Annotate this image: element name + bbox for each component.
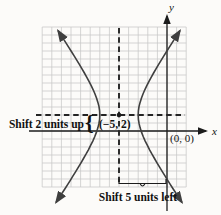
center-point-label: (−5, 2)	[99, 118, 131, 131]
brace-glyph: {	[85, 110, 94, 135]
shift-left-label: Shift 5 units left	[99, 191, 177, 203]
figure-container: { Shift 2 units up (−5, 2) (0, 0) Shift …	[0, 0, 221, 215]
hyperbola-shift-graph: { Shift 2 units up (−5, 2) (0, 0) Shift …	[0, 0, 221, 215]
grid	[42, 27, 186, 187]
y-axis-label: y	[168, 1, 174, 13]
shift-up-label: Shift 2 units up	[9, 118, 84, 131]
figure-background	[0, 0, 221, 215]
x-axis-label: x	[211, 125, 217, 137]
origin-point-label: (0, 0)	[170, 132, 194, 145]
